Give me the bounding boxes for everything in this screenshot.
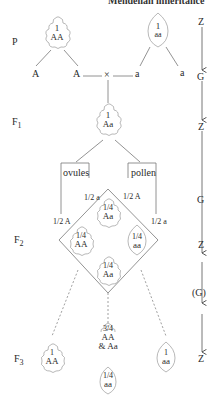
f3-subscript: 3 xyxy=(20,358,24,367)
pollen-label: pollen xyxy=(131,168,156,178)
generation-label-f3: F3 xyxy=(14,354,24,367)
ovule-gamete-A-half: 1/2 A xyxy=(53,218,71,226)
genotype-2: & Aa xyxy=(95,342,121,351)
generation-label-f2: F2 xyxy=(14,235,24,248)
pollen-gamete-a-half: 1/2 a xyxy=(151,218,167,226)
genotype: aa xyxy=(156,357,176,366)
stage-zygote-1: Z xyxy=(198,17,204,27)
genotype: aa xyxy=(98,380,118,389)
genotype: aa xyxy=(127,241,147,250)
f2-left-plant: 1/4 AA xyxy=(71,232,91,249)
gamete-a-4: a xyxy=(180,68,184,78)
genotype: AA xyxy=(42,357,62,366)
generation-label-f1: F1 xyxy=(12,117,22,130)
generation-label-p: P xyxy=(12,37,18,47)
f3-left-plant: 1 AA xyxy=(42,349,62,366)
p-left-plant: 1 AA xyxy=(47,24,67,42)
pollen-gamete-A-half: 1/2 A xyxy=(123,193,141,201)
genotype: AA xyxy=(47,33,67,42)
ovule-gamete-a-half: 1/2 a xyxy=(84,194,100,202)
f3-middle-bottom-plant: 1/4 aa xyxy=(98,372,118,389)
f3-right-plant: 1 aa xyxy=(156,349,176,366)
f2-bottom-plant: 1/4 Aa xyxy=(98,262,118,279)
stage-zygote-3: Z xyxy=(198,240,204,250)
gamete-a-1: A xyxy=(32,69,39,79)
gamete-a-3: a xyxy=(135,69,139,79)
f3-middle-top-plant: 3/4 AA & Aa xyxy=(95,325,121,351)
stage-zygote-4: Z xyxy=(198,354,204,364)
stage-gamete-1: G xyxy=(197,72,204,82)
stage-gamete-2: G xyxy=(197,195,204,205)
p-right-plant: 1 aa xyxy=(148,22,168,39)
ovules-label: ovules xyxy=(63,168,89,178)
f1-subscript: 1 xyxy=(18,121,22,130)
f2-top-plant: 1/4 Aa xyxy=(98,204,118,221)
genotype: AA xyxy=(71,240,91,249)
stage-gamete-3: (G) xyxy=(192,288,206,298)
f1-plant: 1 Aa xyxy=(98,111,118,129)
stage-zygote-2: Z xyxy=(198,122,204,132)
genotype: aa xyxy=(148,31,168,39)
genotype: Aa xyxy=(98,212,118,221)
genotype: Aa xyxy=(98,270,118,279)
gamete-a-2: A xyxy=(73,69,80,79)
cross-symbol: × xyxy=(104,70,110,80)
f2-subscript: 2 xyxy=(20,239,24,248)
f2-right-plant: 1/4 aa xyxy=(127,233,147,250)
genotype: Aa xyxy=(98,120,118,129)
